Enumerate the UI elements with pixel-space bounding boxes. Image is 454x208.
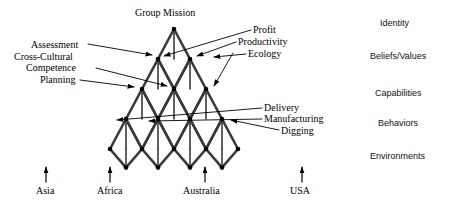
label-planning: Planning (40, 75, 76, 85)
level-label-environments: Environments (370, 152, 425, 161)
label-manufacturing: Manufacturing (264, 114, 323, 124)
node-label-group-mission: Group Mission (135, 8, 195, 18)
label-delivery: Delivery (264, 103, 299, 113)
label-africa: Africa (97, 186, 123, 196)
label-asia: Asia (36, 186, 54, 196)
bottom-arrows (46, 167, 302, 182)
label-assessment: Assessment (31, 40, 78, 50)
level-label-behaviors: Behaviors (378, 119, 418, 128)
label-profit: Profit (253, 25, 276, 35)
label-productivity: Productivity (238, 37, 287, 47)
label-australia: Australia (183, 186, 220, 196)
level-label-capabilities: Capabilities (375, 89, 422, 98)
label-usa: USA (290, 186, 310, 196)
level-label-beliefs-values: Beliefs/Values (370, 52, 426, 61)
label-digging: Digging (281, 126, 314, 136)
label-cross-cultural: Cross-Cultural (14, 52, 73, 62)
label-ecology: Ecology (248, 49, 281, 59)
pyramid-lattice-diagram (0, 0, 454, 208)
level-label-identity: Identity (380, 19, 409, 28)
label-competence: Competence (26, 63, 76, 73)
diagram-canvas: Group Mission Assessment Cross-Cultural … (0, 0, 454, 208)
